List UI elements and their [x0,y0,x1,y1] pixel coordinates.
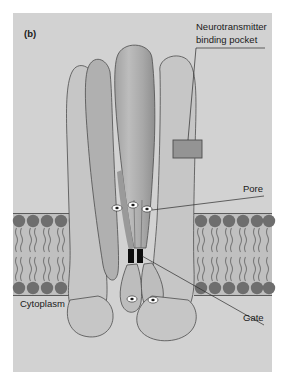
ion-channel-diagram: (b) Neurotransmitter binding pocket Pore… [0,0,285,386]
binding-pocket-label-line1: Neurotransmitter [196,21,267,32]
lipid-bilayer-right [194,213,275,296]
gate-bar-left [128,249,134,263]
binding-pocket-label-line2: binding pocket [196,34,258,45]
cytoplasmic-foot-right [137,296,196,341]
ion [148,297,158,303]
gate-label: Gate [243,312,264,323]
ion [112,205,122,211]
cytoplasmic-foot-left [67,296,113,337]
ion [128,202,138,208]
ion [127,296,137,302]
ion [142,206,152,212]
binding-pocket-box [173,140,202,158]
cytoplasm-label: Cytoplasm [20,298,65,309]
panel-label: (b) [24,28,36,39]
figure-panel-b: (b) Neurotransmitter binding pocket Pore… [0,0,285,386]
pore-label: Pore [243,183,263,194]
